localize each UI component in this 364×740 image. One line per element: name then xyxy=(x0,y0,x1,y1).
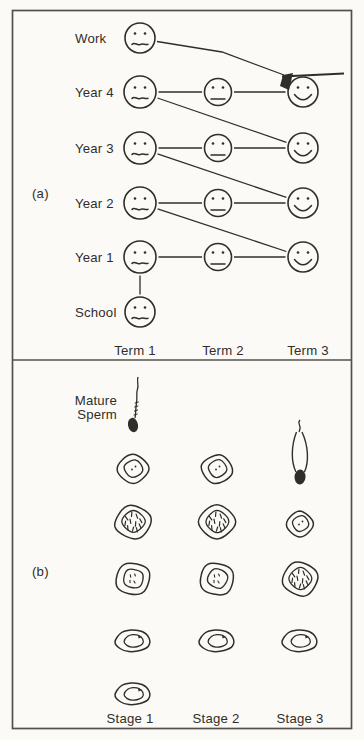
row-label-year2: Year 2 xyxy=(75,196,114,211)
cell-stage2-row1-round-cell-dots xyxy=(201,455,232,484)
eye-left xyxy=(134,86,137,89)
cell-stage3-row1-elongating-spermatid xyxy=(292,420,307,485)
term-label-3: Term 3 xyxy=(287,343,329,358)
link-work-to-graduation-cap xyxy=(157,42,284,76)
mouth-uneasy xyxy=(132,97,148,99)
term-label-1: Term 1 xyxy=(114,343,156,358)
eye-left xyxy=(134,197,137,200)
mouth-uneasy xyxy=(132,43,148,45)
face-year3-term3-happy xyxy=(288,133,318,163)
mouth-uneasy xyxy=(132,153,148,155)
mature-sperm-label-line2: Sperm xyxy=(77,407,117,422)
face-year1-term2-neutral xyxy=(205,244,232,271)
eye-right xyxy=(222,251,225,254)
eye-right xyxy=(222,142,225,145)
stage-label-2: Stage 2 xyxy=(193,711,240,726)
eye-right xyxy=(307,197,310,200)
mature-sperm-label-line1: Mature xyxy=(75,393,117,408)
cell-stage1-row1-round-cell-dots xyxy=(117,454,149,483)
cell-stage2-row2-cell-chromosomes xyxy=(198,505,235,539)
row-label-work: Work xyxy=(75,31,107,46)
figure-border xyxy=(13,11,352,729)
eye-left xyxy=(212,251,215,254)
term-label-2: Term 2 xyxy=(202,343,244,358)
face-year4-term3-happy xyxy=(280,73,344,107)
cell-stage1-row5-flattened-cell xyxy=(115,683,150,705)
mouth-happy xyxy=(295,206,312,211)
eye-right xyxy=(222,197,225,200)
eye-left xyxy=(297,197,300,200)
face-year1-term1-uneasy xyxy=(124,241,156,273)
eye-left xyxy=(134,32,137,35)
graduation-cap-tassel xyxy=(280,73,293,90)
row-label-year1: Year 1 xyxy=(75,250,114,265)
eye-left xyxy=(134,142,137,145)
mouth-happy xyxy=(295,260,312,265)
face-year4-term2-neutral xyxy=(205,79,232,106)
eye-left xyxy=(297,142,300,145)
face-year1-term3-happy xyxy=(288,242,318,272)
eye-left xyxy=(134,251,137,254)
cell-stage1-row4-flattened-cell xyxy=(115,630,150,652)
face-year3-term2-neutral xyxy=(205,135,232,162)
mature-sperm-drawing xyxy=(127,377,140,433)
figure-canvas: WorkYear 4Year 3Year 2Year 1SchoolTerm 1… xyxy=(0,0,364,740)
stage-label-3: Stage 3 xyxy=(277,711,324,726)
face-year2-term2-neutral xyxy=(205,190,232,217)
eye-right xyxy=(307,142,310,145)
row-label-year3: Year 3 xyxy=(75,141,114,156)
face-year4-term1-uneasy xyxy=(124,76,156,108)
eye-left xyxy=(134,306,137,309)
cell-stage2-row4-flattened-cell xyxy=(199,630,234,652)
face-year2-term1-uneasy xyxy=(124,187,156,219)
eye-right xyxy=(144,86,147,89)
face-work-term1-uneasy xyxy=(125,23,155,53)
cell-stage1-row3-round-cell-specks xyxy=(116,563,150,594)
cell-stage1-row2-cell-chromosomes xyxy=(115,505,151,538)
mouth-uneasy xyxy=(132,317,148,319)
eye-right xyxy=(144,197,147,200)
panel-b-tag: (b) xyxy=(32,564,49,579)
mouth-uneasy xyxy=(132,208,148,210)
cell-stage3-row2-round-cell-dots-small xyxy=(286,511,313,537)
eye-left xyxy=(212,142,215,145)
eye-left xyxy=(297,86,300,89)
stage-label-1: Stage 1 xyxy=(107,711,154,726)
eye-right xyxy=(144,306,147,309)
cell-stage3-row4-flattened-cell xyxy=(282,630,317,652)
cell-stage3-row3-cell-chromosomes xyxy=(282,562,318,596)
mouth-happy xyxy=(295,95,312,100)
mouth-happy xyxy=(295,151,312,156)
eye-left xyxy=(212,86,215,89)
eye-left xyxy=(212,197,215,200)
cell-stage2-row3-round-cell-specks xyxy=(200,563,233,594)
row-label-school: School xyxy=(75,305,117,320)
eye-right xyxy=(307,86,310,89)
scanned-figure-page: WorkYear 4Year 3Year 2Year 1SchoolTerm 1… xyxy=(0,0,364,740)
face-school-term1-uneasy xyxy=(125,297,155,327)
eye-right xyxy=(307,251,310,254)
panel-a-tag: (a) xyxy=(32,186,49,201)
row-label-year4: Year 4 xyxy=(75,85,114,100)
eye-right xyxy=(144,142,147,145)
face-year3-term1-uneasy xyxy=(124,132,156,164)
eye-right xyxy=(222,86,225,89)
mouth-uneasy xyxy=(132,262,148,264)
eye-right xyxy=(144,32,147,35)
eye-right xyxy=(144,251,147,254)
face-year2-term3-happy xyxy=(288,188,318,218)
eye-left xyxy=(297,251,300,254)
